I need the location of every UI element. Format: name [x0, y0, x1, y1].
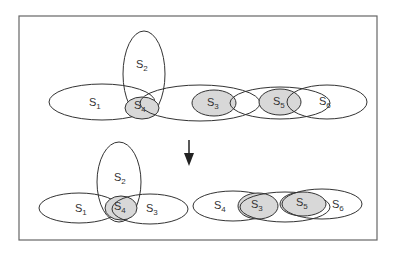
label-s4: S4 — [214, 199, 226, 214]
label-s6: S6 — [332, 198, 344, 213]
label-s2: S2 — [136, 58, 148, 73]
label-s6: S6 — [319, 95, 331, 110]
label-s1: S1 — [89, 96, 101, 111]
down-arrow-icon — [184, 140, 194, 166]
label-s2: S2 — [114, 171, 126, 186]
label-s1: S1 — [75, 202, 87, 217]
label-s3: S3 — [146, 202, 158, 217]
set-decomposition-diagram: S1 S2 S4 S3 S5 S6 S1 S2 S4 S3 S4 S3 S5 S… — [0, 0, 394, 254]
